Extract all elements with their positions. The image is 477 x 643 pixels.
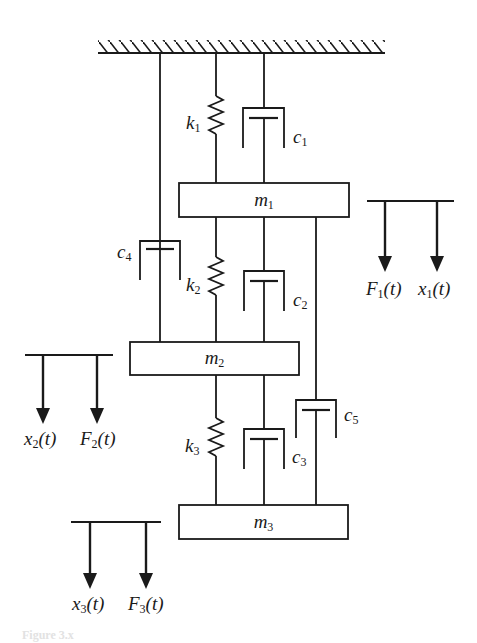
arrow-down-icon: [83, 573, 97, 589]
damper-c2: [244, 217, 284, 342]
spring-k3: [209, 375, 223, 505]
label-k3: k3: [185, 436, 199, 457]
label-m2: m2: [130, 348, 299, 369]
arrows-mass3: [71, 522, 161, 575]
label-c1: c1: [293, 127, 307, 148]
figure-caption: Figure 3.x: [22, 628, 74, 643]
arrow-down-icon: [36, 408, 50, 424]
spring-k2: [209, 217, 223, 342]
arrow-down-icon: [90, 408, 104, 424]
label-x1: x1(t): [418, 279, 450, 300]
label-m1: m1: [179, 190, 349, 211]
label-k2: k2: [186, 275, 200, 296]
label-c4: c4: [117, 242, 131, 263]
label-m3: m3: [179, 512, 348, 533]
label-x2: x2(t): [24, 429, 56, 450]
label-F3: F3(t): [128, 594, 164, 615]
label-F1: F1(t): [366, 279, 402, 300]
arrow-down-icon: [430, 256, 444, 272]
label-c5: c5: [344, 405, 358, 426]
label-x3: x3(t): [72, 594, 104, 615]
damper-c4: [140, 53, 180, 342]
arrow-down-icon: [378, 256, 392, 272]
arrows-mass1: [367, 201, 454, 258]
label-c2: c2: [293, 290, 307, 311]
arrows-mass2: [25, 355, 113, 410]
label-F2: F2(t): [80, 429, 116, 450]
arrow-down-icon: [139, 573, 153, 589]
spring-k1: [209, 53, 223, 183]
label-k1: k1: [186, 113, 200, 134]
damper-c3: [244, 375, 284, 505]
ground-support: [98, 40, 385, 53]
label-c3: c3: [292, 447, 306, 468]
damper-c1: [243, 53, 284, 183]
